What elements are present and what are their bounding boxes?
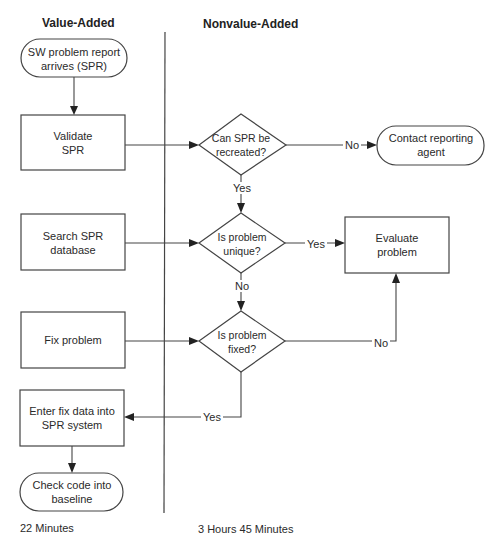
start-node: SW problem report arrives (SPR): [26, 45, 122, 73]
edge-label-unique-yes: Yes: [305, 238, 327, 250]
value-added-time: 22 Minutes: [20, 522, 74, 534]
fix-node: Fix problem: [24, 333, 122, 347]
edge-label-fixed-yes: Yes: [201, 411, 223, 423]
enter-fix-node: Enter fix data into SPR system: [26, 404, 118, 432]
validate-node: Validate SPR: [46, 129, 100, 157]
is-fixed-decision: Is problem fixed?: [214, 328, 270, 356]
lane-header-nonvalue-added: Nonvalue-Added: [203, 17, 298, 31]
edge-label-recreate-yes: Yes: [231, 182, 253, 194]
edge-label-fixed-no: No: [372, 337, 390, 349]
lane-divider: [164, 32, 165, 513]
can-recreate-decision: Can SPR be recreated?: [207, 131, 275, 159]
check-code-node: Check code into baseline: [30, 478, 114, 506]
is-unique-decision: Is problem unique?: [214, 230, 270, 258]
lane-header-value-added: Value-Added: [42, 16, 115, 30]
search-node: Search SPR database: [38, 229, 108, 257]
contact-node: Contact reporting agent: [383, 131, 479, 159]
evaluate-node: Evaluate problem: [365, 231, 429, 259]
edge-label-recreate-no: No: [343, 139, 361, 151]
nonvalue-added-time: 3 Hours 45 Minutes: [198, 523, 293, 535]
edge-label-unique-no: No: [233, 280, 251, 292]
flowchart-canvas: [0, 0, 502, 549]
